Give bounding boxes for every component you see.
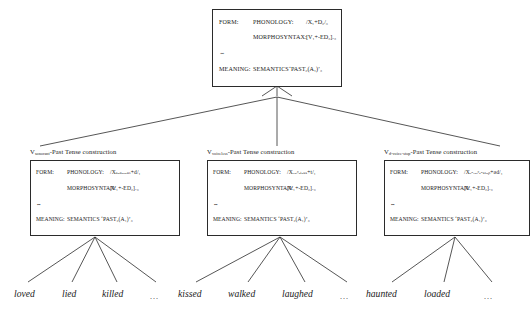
morphosyntax-label: MORPHOSYNTAX: — [253, 34, 307, 40]
morphosyntax-label: MORPHOSYNTAX: — [244, 186, 293, 192]
meaning-label: MEANING: — [219, 66, 251, 72]
construction-title-subscript: d-voice-stop — [389, 151, 411, 156]
leaf-line-haunted — [392, 237, 455, 282]
semantics-label: SEMANTICS — [421, 217, 454, 223]
construction-title-d-voice-stop: Vd-voice-stop-Past Tense construction — [384, 148, 477, 156]
semantics-value: ‘PAST₂(A₁)’₃ — [101, 217, 133, 223]
form-meaning-link-icon: ⇔ — [219, 50, 226, 57]
instance-ellipsis: ... — [340, 292, 349, 301]
form-label: FORM: — [213, 170, 231, 176]
leaf-line-loved — [28, 237, 95, 282]
instance-ellipsis: ... — [484, 292, 493, 301]
form-label: FORM: — [390, 170, 408, 176]
meaning-label: MEANING: — [390, 217, 419, 223]
construction-title-rest: -Past Tense construction — [228, 148, 295, 155]
morphosyntax-value: [V₁+-ED₂]ᵥ₃ — [110, 186, 139, 192]
sub-construction-box-d-voice-stop: FORM: PHONOLOGY: /Xₔ-ᵥₒᵢᶜₑ-ₛₜₒₚ+əd/₁ MOR… — [384, 160, 530, 236]
construction-title-subscript: sonorant — [35, 151, 50, 156]
leaf-line-killed — [95, 237, 117, 282]
branch-to-sonorant — [40, 97, 277, 146]
meaning-label: MEANING: — [213, 217, 242, 223]
morphosyntax-value: [V₁+-ED₂]ᵥ₃ — [287, 186, 316, 192]
instance-word: walked — [228, 288, 255, 299]
form-meaning-link-icon: ⇔ — [213, 202, 219, 208]
form-meaning-link-icon: ⇔ — [390, 202, 396, 208]
instance-word: haunted — [366, 288, 397, 299]
instance-ellipsis: ... — [150, 292, 159, 301]
instance-word: lied — [62, 288, 76, 299]
construction-title-rest: -Past Tense construction — [410, 148, 477, 155]
morphosyntax-value: [V₁+-ED₂]ᵥ₃ — [464, 186, 493, 192]
morphosyntax-value: [V₁+-ED₂]ᵥ₃ — [306, 34, 336, 40]
semantics-label: SEMANTICS — [253, 66, 289, 72]
phonology-value: /Xₛₒₙₒᵣₐₙₜ+d/₁ — [110, 170, 141, 176]
construction-taxonomy-diagram: FORM: PHONOLOGY: /X₁+D₂/₃ MORPHOSYNTAX: … — [0, 0, 532, 312]
semantics-value: ‘PAST₂(A₁)’₃ — [289, 66, 322, 72]
form-label: FORM: — [219, 19, 239, 25]
construction-title-voiceless: Vvoiceless-Past Tense construction — [207, 148, 294, 156]
phonology-label: PHONOLOGY: — [253, 19, 294, 25]
phonology-value: /Xᵥₒᵢᶜₑₗₑₛₛ+t/₁ — [287, 170, 316, 176]
leaf-line-dstp-dots — [455, 237, 492, 282]
form-meaning-link-icon: ⇔ — [36, 202, 42, 208]
leaf-line-laughed — [280, 237, 305, 282]
leaf-line-loaded — [444, 237, 455, 282]
leaf-line-vl-dots — [280, 237, 347, 282]
morphosyntax-label: MORPHOSYNTAX: — [421, 186, 470, 192]
leaf-line-son-dots — [95, 237, 156, 282]
semantics-value: ‘PAST₂(A₁)’₃ — [278, 217, 310, 223]
branch-to-dstop — [277, 97, 500, 146]
construction-title-subscript: voiceless — [212, 151, 228, 156]
instance-word: killed — [102, 288, 123, 299]
inheritance-arrowhead — [262, 86, 292, 96]
phonology-label: PHONOLOGY: — [67, 170, 104, 176]
instance-word: kissed — [178, 288, 201, 299]
instance-word: laughed — [282, 288, 313, 299]
phonology-label: PHONOLOGY: — [421, 170, 458, 176]
phonology-value: /X₁+D₂/₃ — [306, 19, 328, 25]
morphosyntax-label: MORPHOSYNTAX: — [67, 186, 116, 192]
meaning-label: MEANING: — [36, 217, 65, 223]
leaf-line-lied — [72, 237, 95, 282]
sub-construction-box-voiceless: FORM: PHONOLOGY: /Xᵥₒᵢᶜₑₗₑₛₛ+t/₁ MORPHOS… — [207, 160, 357, 236]
sub-construction-box-sonorant: FORM: PHONOLOGY: /Xₛₒₙₒᵣₐₙₜ+d/₁ MORPHOSY… — [30, 160, 180, 236]
leaf-line-kissed — [196, 237, 280, 282]
construction-title-rest: -Past Tense construction — [50, 148, 117, 155]
phonology-label: PHONOLOGY: — [244, 170, 281, 176]
semantics-label: SEMANTICS — [244, 217, 277, 223]
schematic-construction-box: FORM: PHONOLOGY: /X₁+D₂/₃ MORPHOSYNTAX: … — [212, 9, 342, 87]
leaf-line-walked — [248, 237, 280, 282]
semantics-label: SEMANTICS — [67, 217, 100, 223]
phonology-value: /Xₔ-ᵥₒᵢᶜₑ-ₛₜₒₚ+əd/₁ — [464, 170, 503, 176]
construction-title-sonorant: Vsonorant-Past Tense construction — [30, 148, 116, 156]
form-label: FORM: — [36, 170, 54, 176]
semantics-value: ‘PAST₂(A₁)’₃ — [455, 217, 487, 223]
instance-word: loved — [14, 288, 35, 299]
instance-word: loaded — [424, 288, 450, 299]
